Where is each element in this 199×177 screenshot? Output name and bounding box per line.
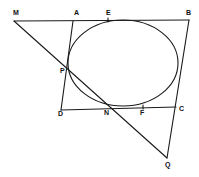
label-B: B — [186, 9, 191, 16]
segment-MQ — [14, 21, 167, 158]
inscribed-ellipse — [68, 20, 178, 106]
label-A: A — [74, 9, 79, 16]
segment-DC — [61, 107, 176, 110]
label-N: N — [104, 109, 109, 116]
label-Q: Q — [165, 161, 171, 169]
label-D: D — [58, 110, 63, 117]
segment-AD — [61, 21, 73, 110]
label-C: C — [179, 105, 184, 112]
geometry-diagram: M A E B P D N F C Q — [0, 0, 199, 177]
label-E: E — [106, 9, 111, 16]
label-P: P — [60, 67, 65, 74]
label-F: F — [140, 109, 145, 116]
label-M: M — [13, 9, 19, 16]
segment-MB — [14, 20, 189, 21]
